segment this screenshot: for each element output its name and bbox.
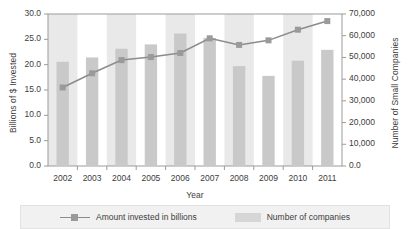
bar-2002	[57, 62, 69, 166]
bar-2011	[321, 50, 333, 166]
marker-2010	[295, 27, 301, 33]
marker-2002	[60, 84, 66, 90]
bar-2008	[233, 66, 245, 166]
marker-2003	[89, 70, 95, 76]
marker-2006	[177, 50, 183, 56]
bar-2004	[115, 49, 127, 166]
marker-2005	[148, 54, 154, 60]
bar-swatch-icon	[235, 213, 261, 222]
marker-2008	[236, 42, 242, 48]
chart-legend: Amount invested in billions Number of co…	[20, 205, 390, 229]
legend-label-amount-invested: Amount invested in billions	[96, 212, 197, 222]
combo-chart: Billions of $ Invested Number of Small C…	[0, 0, 408, 229]
bar-2007	[204, 38, 216, 166]
bar-2005	[145, 44, 157, 166]
marker-2007	[207, 35, 213, 41]
line-marker-swatch-icon	[60, 213, 90, 222]
legend-item-number-of-companies: Number of companies	[235, 212, 350, 222]
legend-item-amount-invested: Amount invested in billions	[60, 212, 197, 222]
bar-2009	[262, 76, 274, 166]
marker-2009	[266, 37, 272, 43]
legend-label-number-of-companies: Number of companies	[267, 212, 350, 222]
marker-2004	[119, 57, 125, 63]
marker-2011	[324, 18, 330, 24]
bar-2010	[292, 61, 304, 166]
plot-area	[0, 0, 408, 229]
